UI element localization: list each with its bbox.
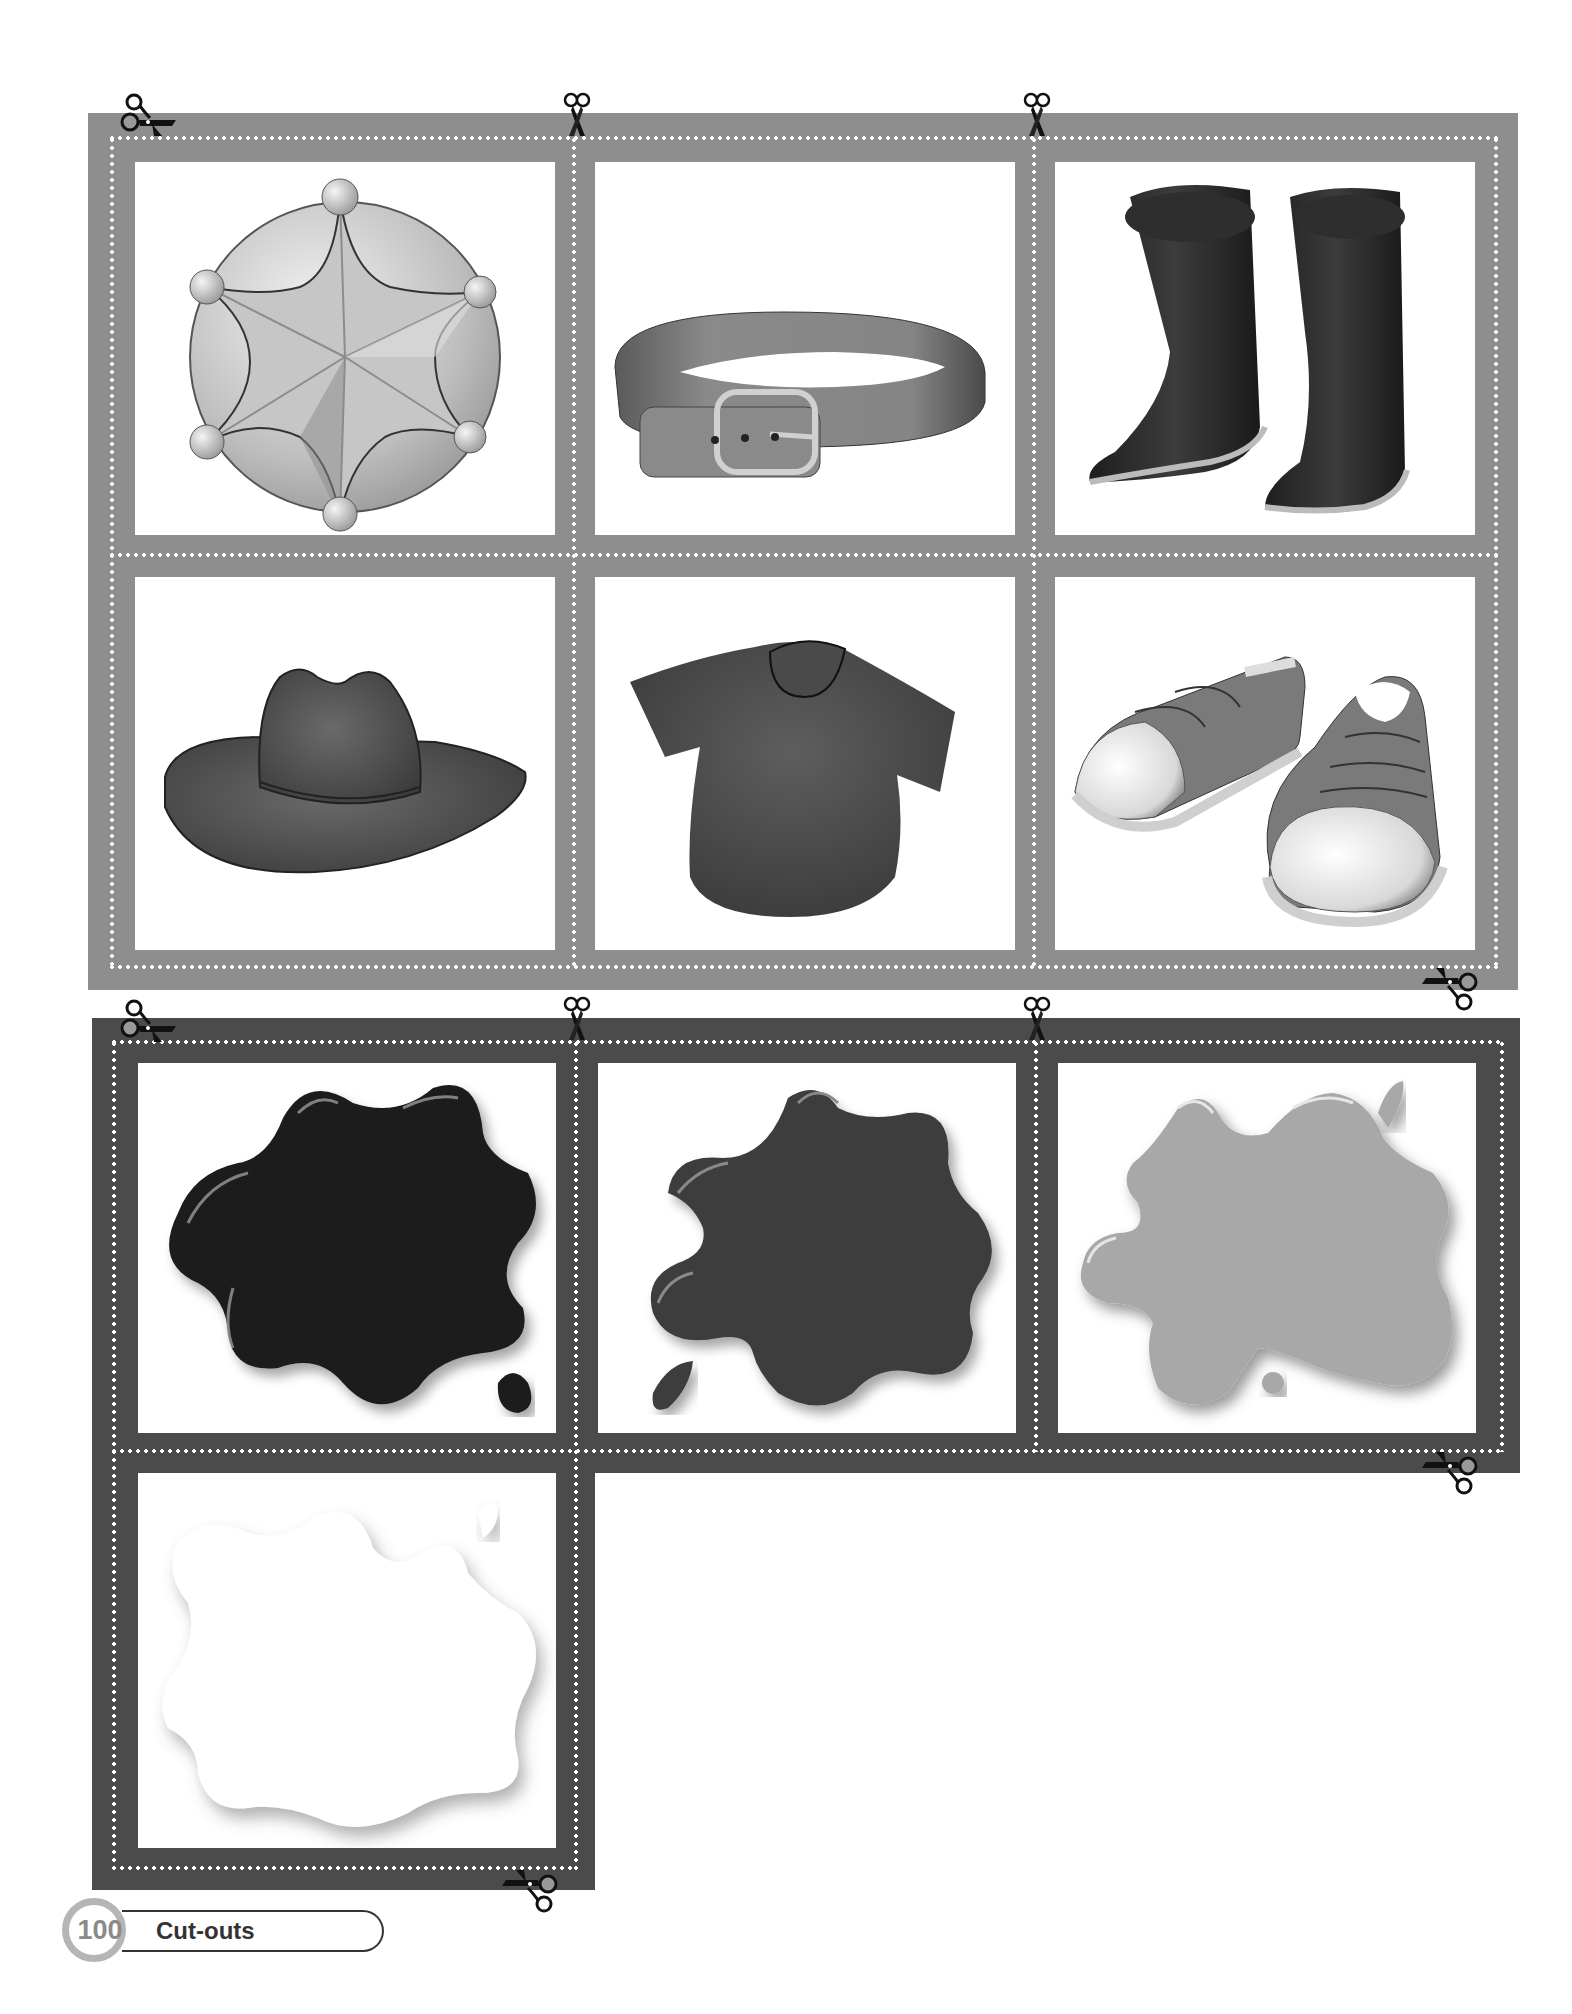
- black-paint-splat-icon: [138, 1063, 556, 1433]
- sheriff-badge-icon: [135, 162, 555, 535]
- card-sheriff-badge[interactable]: [135, 162, 555, 535]
- page-number: 100: [77, 1915, 122, 1946]
- light-gray-paint-splat-icon: [1058, 1063, 1476, 1433]
- cut-line: [110, 136, 114, 968]
- white-paint-splat-icon: [138, 1473, 556, 1848]
- cut-line: [108, 136, 1498, 140]
- scissors-icon: [1023, 996, 1051, 1042]
- belt-icon: [595, 162, 1015, 535]
- card-cowboy-hat[interactable]: [135, 577, 555, 950]
- scissors-icon: [118, 92, 178, 136]
- section-title: Cut-outs: [156, 1917, 255, 1945]
- t-shirt-icon: [595, 577, 1015, 950]
- card-white-paint-splat[interactable]: [138, 1473, 556, 1848]
- scissors-icon: [1420, 968, 1480, 1012]
- card-t-shirt[interactable]: [595, 577, 1015, 950]
- section-title-tab: Cut-outs: [132, 1910, 384, 1952]
- cut-line: [1032, 136, 1036, 968]
- cut-line: [110, 1449, 1503, 1453]
- sneakers-icon: [1055, 577, 1475, 950]
- cowboy-hat-icon: [135, 577, 555, 950]
- scissors-icon: [118, 998, 178, 1042]
- dark-gray-paint-splat-icon: [598, 1063, 1016, 1433]
- scissors-icon: [563, 92, 591, 138]
- scissors-icon: [1023, 92, 1051, 138]
- cut-line: [1034, 1040, 1038, 1452]
- page-number-badge: 100: [62, 1898, 126, 1962]
- cut-line: [112, 1040, 116, 1870]
- cut-line: [110, 1040, 1503, 1044]
- cut-line: [1500, 1040, 1504, 1452]
- card-black-paint-splat[interactable]: [138, 1063, 556, 1433]
- scissors-icon: [1420, 1452, 1480, 1496]
- boots-icon: [1055, 162, 1475, 535]
- card-boots[interactable]: [1055, 162, 1475, 535]
- scissors-icon: [500, 1870, 560, 1914]
- cut-line: [574, 1040, 578, 1870]
- cut-line: [1494, 136, 1498, 968]
- cut-line: [572, 136, 576, 968]
- card-sneakers[interactable]: [1055, 577, 1475, 950]
- cut-line: [108, 553, 1498, 557]
- card-light-gray-paint-splat[interactable]: [1058, 1063, 1476, 1433]
- card-dark-gray-paint-splat[interactable]: [598, 1063, 1016, 1433]
- scissors-icon: [563, 996, 591, 1042]
- cut-line: [108, 965, 1498, 969]
- card-belt[interactable]: [595, 162, 1015, 535]
